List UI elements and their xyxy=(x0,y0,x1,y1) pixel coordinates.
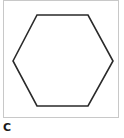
hexagon-outline xyxy=(13,15,113,106)
figure-label: C xyxy=(3,121,11,135)
hexagon-shape xyxy=(4,1,120,119)
figure-panel xyxy=(3,0,119,118)
